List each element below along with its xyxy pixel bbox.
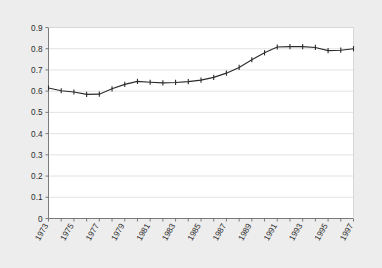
x-axis-tick-label: 1991 <box>262 222 279 243</box>
y-axis-tick-label: 0.3 <box>31 151 43 160</box>
x-axis-tick-label: 1997 <box>338 222 355 243</box>
x-axis-tick-label: 1973 <box>33 222 50 243</box>
x-axis-tick-label: 1989 <box>237 222 254 243</box>
x-axis-tick-label: 1985 <box>186 222 203 243</box>
x-axis-tick-label: 1977 <box>84 222 101 243</box>
y-axis-tick-label: 0.6 <box>31 87 43 96</box>
y-axis-tick-label: 0.1 <box>31 193 43 202</box>
y-axis-tick-label: 0.7 <box>31 66 43 75</box>
plot-background <box>49 28 354 219</box>
x-axis-tick-label: 1987 <box>211 222 228 243</box>
chart-figure: 00.10.20.30.40.50.60.70.80.9197319751977… <box>0 0 382 268</box>
x-axis: 1973197519771979198119831985198719891991… <box>33 219 355 243</box>
y-axis-tick-label: 0.9 <box>31 24 43 33</box>
y-axis: 00.10.20.30.40.50.60.70.80.9 <box>31 24 48 224</box>
x-axis-tick-label: 1979 <box>110 222 127 243</box>
line-chart: 00.10.20.30.40.50.60.70.80.9197319751977… <box>0 0 382 268</box>
x-axis-tick-label: 1975 <box>59 222 76 243</box>
x-axis-tick-label: 1983 <box>160 222 177 243</box>
y-axis-tick-label: 0.8 <box>31 45 43 54</box>
y-axis-tick-label: 0.5 <box>31 108 43 117</box>
y-axis-tick-label: 0.2 <box>31 172 43 181</box>
x-axis-tick-label: 1993 <box>287 222 304 243</box>
x-axis-tick-label: 1981 <box>135 222 152 243</box>
x-axis-tick-label: 1995 <box>313 222 330 243</box>
y-axis-tick-label: 0.4 <box>31 130 43 139</box>
